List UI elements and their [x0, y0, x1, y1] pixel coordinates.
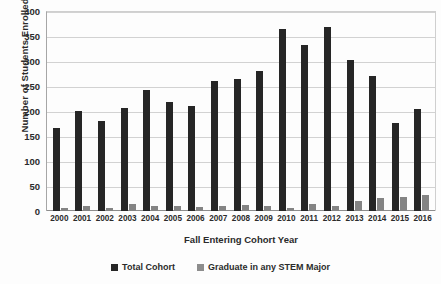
bar-stem-graduates [196, 207, 203, 212]
x-axis-tick-label: 2008 [230, 214, 253, 223]
bar-group [117, 12, 140, 211]
bar-total-cohort [53, 128, 60, 211]
x-axis-title: Fall Entering Cohort Year [46, 234, 436, 245]
bar-stem-graduates [287, 208, 294, 211]
bar-stem-graduates [332, 206, 339, 212]
legend-label: Graduate in any STEM Major [208, 262, 330, 272]
legend-item[interactable]: Total Cohort [111, 262, 175, 272]
bar-group [388, 12, 411, 211]
bar-total-cohort [369, 76, 376, 211]
bar-group [207, 12, 230, 211]
bar-total-cohort [414, 109, 421, 212]
plot-area [46, 11, 436, 211]
x-axis-tick-label: 2015 [389, 214, 412, 223]
legend-swatch-total-cohort [111, 264, 118, 271]
bar-stem-graduates [264, 206, 271, 211]
bar-group [185, 12, 208, 211]
y-axis-tick-label: 150 [10, 131, 40, 142]
y-axis-tick-label: 200 [10, 106, 40, 117]
y-axis-tick-labels: 400350300250200150100500 [10, 0, 40, 284]
bar-groups [47, 12, 435, 211]
bar-group [72, 12, 95, 211]
legend-item[interactable]: Graduate in any STEM Major [197, 262, 330, 272]
bar-group [275, 12, 298, 211]
bar-total-cohort [166, 102, 173, 211]
bar-group [139, 12, 162, 211]
bar-chart: Number of Students Enrolled 400350300250… [0, 0, 441, 284]
bar-stem-graduates [174, 206, 181, 211]
x-axis-tick-label: 2009 [252, 214, 275, 223]
bar-total-cohort [143, 90, 150, 212]
bar-stem-graduates [422, 195, 429, 212]
bar-total-cohort [347, 60, 354, 211]
bar-total-cohort [392, 123, 399, 212]
x-axis-tick-label: 2006 [184, 214, 207, 223]
bar-stem-graduates [219, 206, 226, 211]
y-axis-tick-label: 0 [10, 206, 40, 217]
bar-total-cohort [324, 27, 331, 211]
bar-group [252, 12, 275, 211]
x-axis-tick-label: 2012 [320, 214, 343, 223]
bar-group [298, 12, 321, 211]
bar-stem-graduates [129, 204, 136, 211]
x-axis-tick-label: 2011 [298, 214, 321, 223]
bar-stem-graduates [377, 198, 384, 212]
x-axis-tick-label: 2016 [411, 214, 434, 223]
x-axis-tick-label: 2005 [162, 214, 185, 223]
bar-group [411, 12, 434, 211]
bar-group [365, 12, 388, 211]
y-axis-tick-label: 250 [10, 81, 40, 92]
bar-stem-graduates [151, 206, 158, 211]
bar-stem-graduates [83, 206, 90, 212]
x-axis-tick-label: 2000 [48, 214, 71, 223]
bar-total-cohort [121, 108, 128, 212]
bar-stem-graduates [400, 197, 407, 212]
x-axis-tick-label: 2007 [207, 214, 230, 223]
bar-total-cohort [301, 45, 308, 211]
bar-total-cohort [98, 121, 105, 212]
bar-group [162, 12, 185, 211]
x-axis-tick-label: 2002 [93, 214, 116, 223]
x-axis-tick-label: 2010 [275, 214, 298, 223]
bar-group [230, 12, 253, 211]
bar-group [343, 12, 366, 211]
bar-total-cohort [279, 29, 286, 212]
bar-group [49, 12, 72, 211]
y-axis-tick-label: 50 [10, 181, 40, 192]
bar-group [94, 12, 117, 211]
bar-total-cohort [75, 111, 82, 211]
x-axis-tick-labels: 2000200120022003200420052006200720082009… [46, 214, 436, 223]
y-axis-tick-label: 100 [10, 156, 40, 167]
x-axis-tick-label: 2014 [366, 214, 389, 223]
x-axis-tick-label: 2004 [139, 214, 162, 223]
bar-group [320, 12, 343, 211]
bar-total-cohort [256, 71, 263, 211]
legend-swatch-stem-graduates [197, 264, 204, 271]
bar-stem-graduates [61, 208, 68, 211]
x-axis-tick-label: 2013 [343, 214, 366, 223]
bar-total-cohort [188, 106, 195, 212]
y-axis-tick-label: 400 [10, 6, 40, 17]
bar-total-cohort [211, 81, 218, 211]
bar-stem-graduates [355, 201, 362, 212]
chart-legend: Total CohortGraduate in any STEM Major [0, 262, 441, 272]
bar-stem-graduates [242, 205, 249, 211]
y-axis-tick-label: 350 [10, 31, 40, 42]
bar-stem-graduates [106, 208, 113, 211]
bar-total-cohort [234, 79, 241, 212]
legend-label: Total Cohort [122, 262, 175, 272]
x-axis-tick-label: 2001 [71, 214, 94, 223]
y-axis-tick-label: 300 [10, 56, 40, 67]
x-axis-tick-label: 2003 [116, 214, 139, 223]
bar-stem-graduates [309, 204, 316, 212]
